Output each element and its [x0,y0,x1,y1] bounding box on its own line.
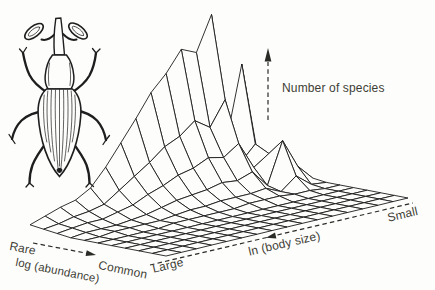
weevil-illustration [9,18,110,187]
beetle-rostrum [54,18,65,55]
surface-mesh [30,15,408,257]
species-axis-arrowhead [265,48,272,62]
figure: Number of species Rare log (abundance) C… [0,0,435,290]
beetle-left-antenna [42,34,56,40]
beetle-front-left-leg [23,53,48,93]
beetle-hind-left-claw [26,183,34,187]
abundance-axis-arrow-line [33,243,87,253]
beetle-pronotum [45,55,74,89]
figure-canvas [0,0,435,290]
beetle-front-left-claw [20,48,27,54]
beetle-front-right-claw [93,49,101,54]
abundance-axis-arrowhead [86,250,96,256]
z-axis-label: Number of species [282,81,385,95]
beetle-front-right-leg [71,53,96,93]
